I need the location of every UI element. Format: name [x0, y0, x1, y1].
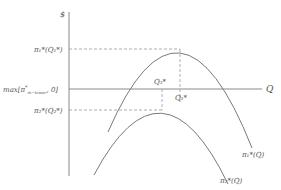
upper-peak-value-label: π₁*(Q₁*) — [33, 46, 63, 54]
q1-marker-label: Q₁* — [175, 94, 188, 102]
profit-diagram: $ Q π₁*(Q₁*) max[π*m−tower, 0] π₂*(Q₂*) … — [0, 0, 281, 190]
lower-peak-value-label: π₂*(Q₂*) — [33, 107, 63, 115]
max-threshold-label: max[π*m−tower, 0] — [3, 84, 58, 95]
lower-profit-curve — [94, 113, 228, 184]
q2-marker-label: Q₂* — [154, 78, 167, 86]
upper-curve-label: π₁*(Q) — [241, 151, 264, 159]
lower-curve-label: π₂*(Q) — [219, 177, 242, 185]
y-axis-label: $ — [60, 10, 65, 19]
x-axis-label: Q — [266, 84, 274, 94]
